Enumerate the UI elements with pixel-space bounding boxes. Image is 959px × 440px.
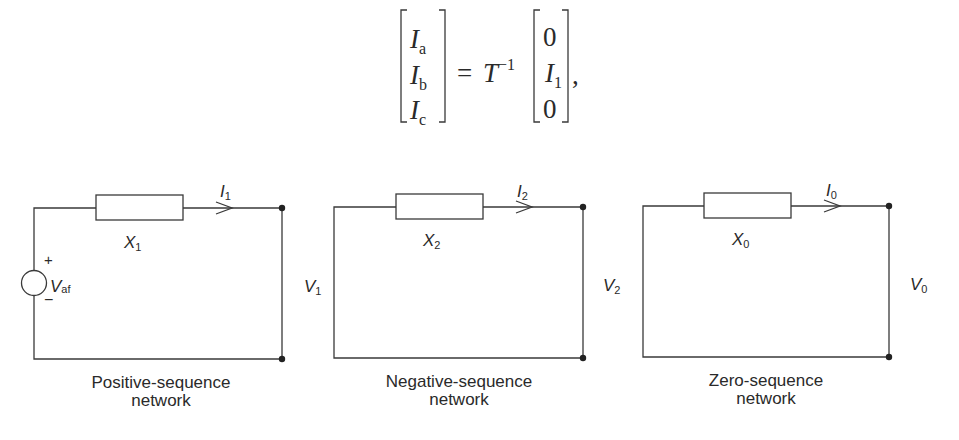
positive-sequence-network: + − Vaf I1 X1 V1 Positive-sequence netwo… — [22, 182, 322, 410]
network-title-line2: network — [131, 391, 191, 410]
reactance-label-x0: X0 — [731, 230, 749, 250]
equals-sign: = — [457, 58, 472, 88]
network-loop-wire — [334, 207, 583, 358]
voltage-label-v1: V1 — [304, 277, 321, 297]
network-title-line2: network — [736, 389, 796, 408]
top-terminal-node — [886, 203, 892, 209]
lhs-entry-2: Ic — [409, 95, 426, 128]
left-matrix-open-bracket — [401, 10, 407, 122]
top-terminal-node — [279, 205, 285, 211]
left-matrix-close-bracket — [439, 10, 445, 122]
rhs-entry-1: I1 — [544, 58, 562, 91]
voltage-source-icon — [22, 271, 47, 296]
equation: Ia Ib Ic = T−1 0 I1 0 , — [401, 10, 579, 128]
negative-sequence-network: I2 X2 V2 Negative-sequence network — [334, 182, 620, 409]
right-matrix-open-bracket — [534, 10, 540, 122]
reactance-label-x1: X1 — [123, 233, 141, 253]
bottom-terminal-node — [580, 355, 586, 361]
top-right-wire — [183, 208, 282, 359]
voltage-label-v0: V0 — [910, 275, 927, 295]
source-voltage-label: Vaf — [50, 277, 71, 296]
bottom-wire — [34, 296, 282, 359]
reactance-x1-resistor-icon — [96, 195, 183, 220]
reactance-x0-resistor-icon — [704, 193, 791, 218]
rhs-entry-0: 0 — [543, 22, 557, 52]
voltage-label-v2: V2 — [603, 276, 620, 296]
rhs-entry-2: 0 — [543, 94, 557, 124]
top-terminal-node — [580, 204, 586, 210]
network-title-line1: Zero-sequence — [709, 371, 823, 390]
sequence-network-diagram: Ia Ib Ic = T−1 0 I1 0 , + − Vaf I1 X1 V1… — [0, 0, 959, 440]
reactance-x2-resistor-icon — [396, 194, 483, 219]
lhs-entry-0: Ia — [409, 24, 426, 57]
current-label-i2: I2 — [517, 182, 528, 202]
bottom-terminal-node — [279, 356, 285, 362]
lhs-entry-1: Ib — [409, 60, 427, 93]
network-loop-wire — [643, 206, 889, 357]
equation-comma: , — [572, 60, 579, 90]
source-plus-sign: + — [44, 251, 53, 268]
current-label-i1: I1 — [220, 182, 231, 202]
transform-operator: T−1 — [483, 56, 515, 88]
zero-sequence-network: I0 X0 V0 Zero-sequence network — [643, 181, 927, 408]
current-label-i0: I0 — [826, 181, 837, 201]
reactance-label-x2: X2 — [422, 231, 440, 251]
network-title-line2: network — [429, 390, 489, 409]
bottom-terminal-node — [886, 354, 892, 360]
right-matrix-close-bracket — [562, 10, 568, 122]
network-title-line1: Negative-sequence — [386, 372, 532, 391]
network-title-line1: Positive-sequence — [92, 373, 231, 392]
